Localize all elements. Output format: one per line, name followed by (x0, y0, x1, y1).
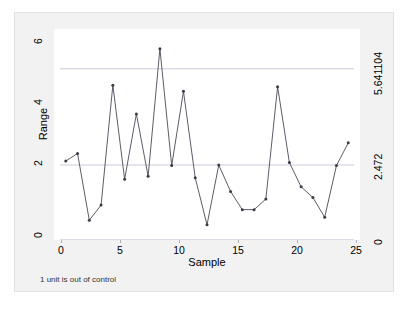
data-point (276, 85, 279, 88)
data-point (323, 216, 326, 219)
data-point (100, 204, 103, 207)
data-point (264, 198, 267, 201)
y-tick-label-4: 4 (32, 92, 44, 112)
data-point (111, 84, 114, 87)
data-point (206, 223, 209, 226)
data-point (170, 164, 173, 167)
x-tick-label-20: 20 (284, 244, 310, 256)
out-of-control-note: 1 unit is out of control (40, 275, 116, 284)
y-tick-label-2: 2 (32, 153, 44, 173)
y-tick-label-6: 6 (32, 31, 44, 51)
data-point (76, 152, 79, 155)
data-point (335, 164, 338, 167)
x-tick-mark-0 (61, 240, 62, 243)
right-tick-label-lcl: 0 (372, 239, 384, 245)
data-point (88, 219, 91, 222)
data-point (123, 178, 126, 181)
x-tick-label-5: 5 (107, 244, 133, 256)
x-tick-mark-25 (356, 240, 357, 243)
range-chart-svg (54, 29, 360, 240)
data-point (288, 161, 291, 164)
x-tick-mark-10 (179, 240, 180, 243)
right-tick-label-center: 2.472 (372, 154, 384, 180)
data-point (300, 185, 303, 188)
data-point (347, 141, 350, 144)
range-series-markers (64, 47, 349, 226)
data-point (64, 160, 67, 163)
x-tick-mark-15 (238, 240, 239, 243)
data-point (241, 208, 244, 211)
data-point (147, 175, 150, 178)
control-limit-lines (60, 69, 354, 240)
data-point (194, 176, 197, 179)
data-point (135, 113, 138, 116)
range-series-line (66, 49, 348, 225)
data-point (229, 190, 232, 193)
x-tick-label-25: 25 (343, 244, 369, 256)
data-point (311, 196, 314, 199)
data-point (182, 90, 185, 93)
x-tick-label-15: 15 (225, 244, 251, 256)
x-tick-label-10: 10 (166, 244, 192, 256)
data-point (253, 208, 256, 211)
plot-area (54, 29, 360, 240)
x-tick-mark-5 (120, 240, 121, 243)
x-axis-title: Sample (54, 256, 360, 268)
r-chart-figure: Range 6 4 2 0 5.641104 2.472 0 0 5 10 15… (0, 0, 409, 313)
data-point (158, 47, 161, 50)
right-tick-label-ucl: 5.641104 (372, 52, 384, 95)
x-tick-mark-20 (297, 240, 298, 243)
x-tick-label-0: 0 (48, 244, 74, 256)
data-point (217, 164, 220, 167)
y-tick-label-0: 0 (32, 225, 44, 245)
